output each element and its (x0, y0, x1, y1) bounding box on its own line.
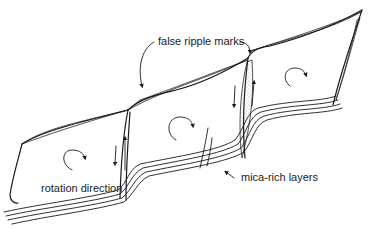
mica-rich-layers (4, 96, 342, 224)
rotation-arrow-icon (169, 117, 193, 140)
label-rotation-direction: rotation direction (41, 182, 122, 194)
fault-arrow-down-icon (115, 146, 116, 164)
leader-arrow-icon (226, 172, 234, 178)
fault-arrow-down-icon (234, 86, 235, 106)
diagram: false ripple marks rotation direction mi… (0, 0, 368, 229)
label-false-ripple-marks: false ripple marks (158, 35, 245, 47)
right-block (248, 10, 362, 105)
rotation-arrow-icon (64, 150, 85, 170)
rotation-arrow-icon (285, 68, 306, 86)
leader-arrow-icon (140, 42, 154, 86)
label-mica-rich-layers: mica-rich layers (241, 171, 319, 183)
